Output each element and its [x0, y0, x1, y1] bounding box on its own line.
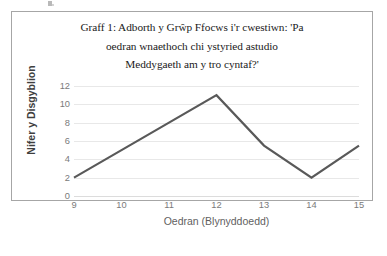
x-axis-tick-labels: 9101112131415	[74, 200, 359, 214]
x-tick-label: 13	[259, 200, 269, 210]
x-tick-label: 15	[354, 200, 364, 210]
y-axis-title: Nifer y Disgyblion	[25, 50, 37, 170]
y-tick-label: 8	[65, 118, 70, 128]
gridline-y-0	[74, 196, 359, 197]
chart-title: Graff 1: Adborth y Grŵp Ffocws i'r cwest…	[42, 18, 342, 74]
chart-frame: Graff 1: Adborth y Grŵp Ffocws i'r cwest…	[11, 11, 373, 201]
x-axis-title: Oedran (Blynyddoedd)	[74, 215, 359, 227]
line-series	[74, 86, 359, 196]
plot-area	[74, 86, 359, 196]
chart-title-line-3: Meddygaeth am y tro cyntaf?'	[42, 55, 342, 74]
chart-title-line-1: Graff 1: Adborth y Grŵp Ffocws i'r cwest…	[42, 18, 342, 37]
y-tick-label: 10	[60, 99, 70, 109]
x-tick-label: 14	[306, 200, 316, 210]
x-tick-label: 10	[116, 200, 126, 210]
x-tick-label: 11	[164, 200, 174, 210]
y-tick-label: 2	[65, 173, 70, 183]
y-axis-tick-labels: 121086420	[42, 86, 70, 196]
chart-title-line-2: oedran wnaethoch chi ystyried astudio	[42, 37, 342, 56]
scan-artifact-speck-2	[52, 4, 54, 6]
y-tick-label: 6	[65, 136, 70, 146]
x-tick-label: 12	[211, 200, 221, 210]
x-tick-label: 9	[71, 200, 76, 210]
y-tick-label: 12	[60, 81, 70, 91]
y-tick-label: 0	[65, 191, 70, 201]
y-tick-label: 4	[65, 154, 70, 164]
